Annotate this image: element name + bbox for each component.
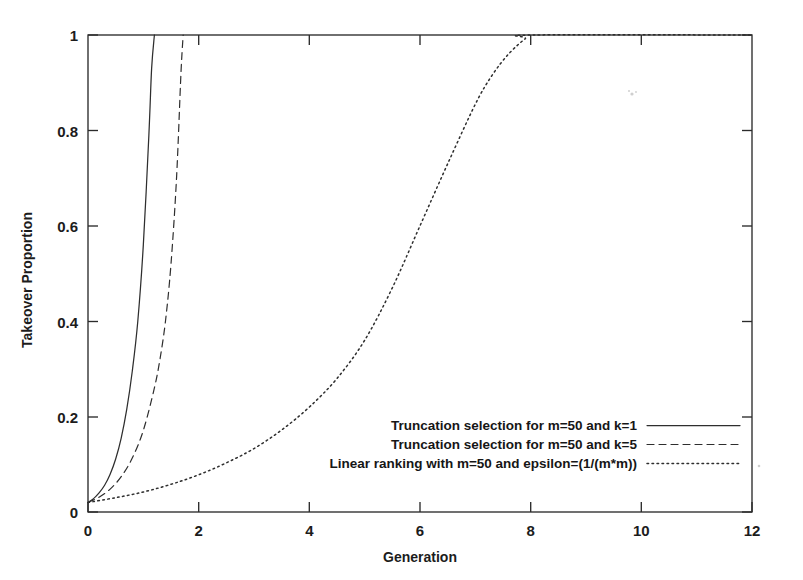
y-tick-label: 0 bbox=[70, 504, 78, 521]
scan-speck-artifact bbox=[628, 90, 760, 467]
x-tick-label: 4 bbox=[305, 522, 314, 539]
legend-label: Truncation selection for m=50 and k=5 bbox=[391, 437, 638, 452]
x-tick-label: 0 bbox=[84, 522, 92, 539]
y-axis-title: Takeover Proportion bbox=[19, 212, 35, 348]
y-tick-label: 0.8 bbox=[57, 123, 78, 140]
x-tick-label: 10 bbox=[633, 522, 650, 539]
legend-label: Linear ranking with m=50 and epsilon=(1/… bbox=[329, 456, 637, 471]
x-tick-label: 12 bbox=[744, 522, 761, 539]
series-line-truncation-k1 bbox=[88, 35, 154, 502]
series-line-truncation-k5 bbox=[88, 35, 183, 502]
legend-label: Truncation selection for m=50 and k=1 bbox=[391, 418, 638, 433]
x-tick-label: 6 bbox=[416, 522, 424, 539]
chart-figure: 1 0.8 0.6 0.4 0.2 0 0 2 4 6 8 10 12 Gene… bbox=[0, 0, 803, 580]
plot-svg: 1 0.8 0.6 0.4 0.2 0 0 2 4 6 8 10 12 Gene… bbox=[0, 0, 803, 580]
y-axis-tick-labels: 1 0.8 0.6 0.4 0.2 0 bbox=[57, 27, 79, 521]
y-tick-label: 0.2 bbox=[57, 409, 78, 426]
x-tick-label: 2 bbox=[195, 522, 203, 539]
y-tick-label: 0.4 bbox=[57, 314, 79, 331]
x-tick-label: 8 bbox=[527, 522, 535, 539]
x-axis-title: Generation bbox=[383, 549, 457, 565]
y-tick-label: 0.6 bbox=[57, 218, 78, 235]
legend: Truncation selection for m=50 and k=1 Tr… bbox=[329, 418, 740, 471]
y-tick-label: 1 bbox=[70, 27, 78, 44]
x-axis-tick-labels: 0 2 4 6 8 10 12 bbox=[84, 522, 761, 539]
